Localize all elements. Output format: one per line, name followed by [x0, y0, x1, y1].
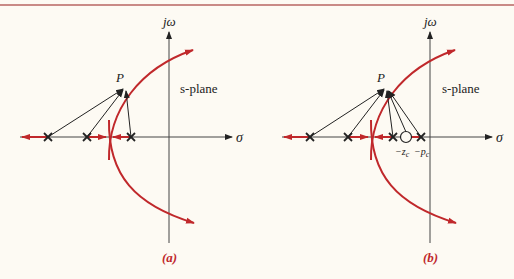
compensator-zero-marker — [401, 132, 412, 143]
panel-caption: (a) — [162, 250, 177, 265]
real-axis-label: σ — [496, 130, 504, 145]
locus-curve — [109, 120, 194, 223]
s-plane-label: s-plane — [442, 81, 480, 96]
locus-curve — [371, 50, 455, 160]
imag-axis-label: jω — [422, 14, 437, 29]
real-axis-label: σ — [236, 130, 244, 145]
locus-curve — [109, 50, 193, 160]
pole-label: −pc — [414, 146, 430, 159]
locus-curve — [371, 120, 456, 223]
s-plane-label: s-plane — [180, 81, 218, 96]
panel-caption: (b) — [423, 250, 438, 265]
point-P-label: P — [376, 70, 385, 85]
panel-b: jω σ s-plane P — [282, 14, 504, 265]
vector-to-P — [310, 89, 384, 137]
point-P-label: P — [115, 70, 124, 85]
imag-axis-label: jω — [161, 14, 176, 29]
root-locus-figure: jω σ s-plane P (a) jω σ s-plane — [0, 0, 514, 279]
vector-to-P — [126, 91, 131, 137]
vector-to-P — [348, 90, 384, 137]
panel-a: jω σ s-plane P (a) — [20, 14, 244, 265]
zero-label: −zc — [395, 146, 410, 159]
